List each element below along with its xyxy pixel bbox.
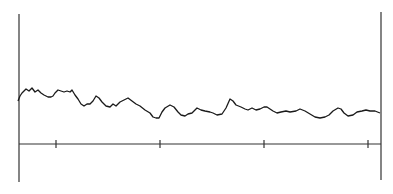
line-chart	[0, 0, 393, 194]
data-trace-line	[18, 88, 380, 118]
